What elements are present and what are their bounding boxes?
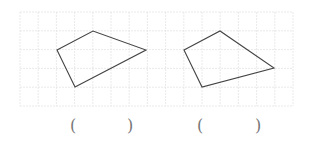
quadrilateral-2 [184, 31, 274, 87]
answer-2-open-paren: ( [197, 118, 203, 134]
answer-2-close-paren: ) [255, 118, 261, 134]
answer-1-open-paren: ( [70, 118, 76, 134]
quadrilateral-1 [57, 31, 146, 87]
answer-1-close-paren: ) [127, 118, 133, 134]
